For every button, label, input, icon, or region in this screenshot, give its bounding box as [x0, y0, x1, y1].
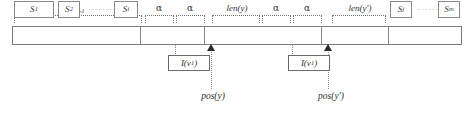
- bracket-label-alpha-1: α: [145, 4, 173, 13]
- bracket-label-alpha-2: α: [176, 4, 204, 13]
- guide-pos-y: [211, 45, 212, 89]
- label-pos-y-prime: pos(y′): [302, 92, 360, 102]
- bracket-alpha-3: [262, 15, 291, 23]
- cell-si: Si: [114, 1, 138, 18]
- bracket-len-y-prime: [332, 15, 386, 23]
- cell-sm: Sm: [438, 1, 460, 18]
- bracket-label-len-y: len(y): [212, 4, 262, 13]
- label-pos-y: pos(y): [186, 92, 240, 102]
- strip-divider-mid: [204, 26, 205, 45]
- bracket-len-y: [212, 15, 260, 23]
- bracket-alpha-2: [176, 15, 205, 23]
- callout-interval-v1-right: I(v1): [288, 55, 330, 71]
- cell-sj: Sj: [390, 1, 412, 18]
- cell-s1: S1: [14, 1, 54, 18]
- bracket-label-len-y-prime: len(y′): [332, 4, 388, 13]
- bracket-alpha-4: [293, 15, 322, 23]
- arrow-pos-y: [207, 44, 215, 51]
- cell-s2: S2: [58, 1, 80, 18]
- arrow-pos-y-prime: [324, 44, 332, 51]
- sequence-strip: [12, 26, 462, 45]
- bracket-alpha-1: [145, 15, 174, 23]
- strip-divider-far: [388, 26, 389, 45]
- sequence-strip-diagram: Ni-1 α α len(y) α α len(y′) S1 S2 ······…: [0, 0, 472, 114]
- strip-divider-left: [140, 26, 141, 45]
- callout-interval-v1-left: I(v1): [168, 55, 210, 71]
- strip-divider-right: [321, 26, 322, 45]
- bracket-label-alpha-4: α: [293, 4, 321, 13]
- bracket-label-alpha-3: α: [262, 4, 290, 13]
